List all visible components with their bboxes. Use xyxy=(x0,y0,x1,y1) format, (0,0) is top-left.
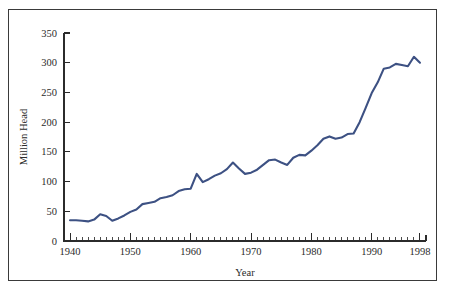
y-axis-tick-labels: 050100150200250300350 xyxy=(41,28,57,247)
x-axis-tick-labels: 1940195019601970198019901998 xyxy=(60,246,431,257)
x-tick-label-1998: 1998 xyxy=(409,246,430,257)
x-tick-label-1950: 1950 xyxy=(120,246,141,257)
y-tick-label-150: 150 xyxy=(41,146,57,157)
figure-container: 050100150200250300350 194019501960197019… xyxy=(0,0,451,297)
chart-axes xyxy=(64,33,426,241)
axis-spine xyxy=(64,33,426,241)
x-tick-label-1990: 1990 xyxy=(361,246,382,257)
y-tick-label-250: 250 xyxy=(41,87,57,98)
line-chart: 050100150200250300350 194019501960197019… xyxy=(9,10,438,282)
x-tick-label-1980: 1980 xyxy=(301,246,322,257)
y-tick-label-0: 0 xyxy=(52,236,57,247)
x-axis-minor-ticks xyxy=(76,237,414,241)
y-tick-label-100: 100 xyxy=(41,176,57,187)
x-tick-label-1970: 1970 xyxy=(241,246,262,257)
y-tick-label-50: 50 xyxy=(47,206,58,217)
y-axis-ticks xyxy=(64,33,70,241)
y-axis-title: Million Head xyxy=(18,108,29,165)
data-series-line xyxy=(70,57,420,222)
y-tick-label-350: 350 xyxy=(41,28,57,39)
x-axis-title: Year xyxy=(235,267,255,278)
x-tick-label-1960: 1960 xyxy=(180,246,201,257)
y-tick-label-300: 300 xyxy=(41,57,57,68)
chart-frame-border: 050100150200250300350 194019501960197019… xyxy=(8,9,437,281)
x-tick-label-1940: 1940 xyxy=(60,246,81,257)
y-tick-label-200: 200 xyxy=(41,117,57,128)
